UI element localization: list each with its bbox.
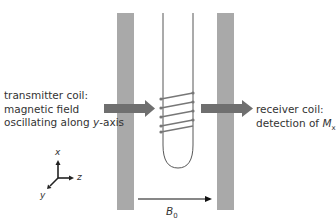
transmitter-line-2: magnetic field [4,103,124,117]
receiver-line-1: receiver coil: [256,103,336,117]
transmitter-line-1: transmitter coil: [4,89,124,103]
receiver-line-2: detection of Mx [256,117,336,136]
axis-label-x: x [55,146,60,160]
b0-label: B0 [166,205,178,224]
axis-label-y: y [40,189,45,203]
axis-label-z: z [77,171,82,185]
coil [161,93,193,132]
sample-tube [163,13,193,168]
axes-icon [47,160,74,189]
receiver-label: receiver coil: detection of Mx [256,103,336,135]
b0-field-arrow [138,196,212,202]
transmitter-line-3: oscillating along y-axis [4,116,124,130]
transmitter-label: transmitter coil: magnetic field oscilla… [4,89,124,130]
